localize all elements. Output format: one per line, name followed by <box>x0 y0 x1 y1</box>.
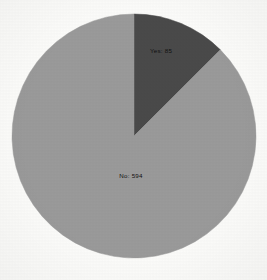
pie-chart-canvas: Yes: 85No: 594 <box>0 0 267 280</box>
pie-slice-no <box>12 14 256 258</box>
pie-slice-label-no: No: 594 <box>119 172 143 179</box>
pie-chart-figure: Yes: 85No: 594 <box>0 0 267 280</box>
pie-slice-label-yes: Yes: 85 <box>150 47 172 54</box>
pie-slices-group <box>12 14 256 258</box>
